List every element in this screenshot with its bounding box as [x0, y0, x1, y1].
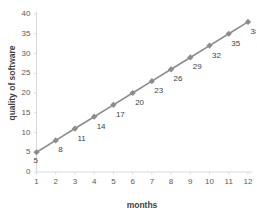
- data-point-label: 32: [212, 52, 221, 60]
- data-point-label: 8: [58, 146, 62, 154]
- data-point-label: 17: [116, 111, 125, 119]
- data-point-label: 11: [77, 135, 85, 143]
- line-chart: quality of software 0510152025303540 123…: [0, 0, 256, 221]
- data-point-label: 20: [135, 99, 144, 107]
- plot-area: [0, 0, 256, 221]
- data-point-label: 35: [231, 40, 240, 48]
- data-point-label: 29: [193, 63, 202, 71]
- axis-lines: [37, 12, 253, 172]
- data-point-label: 23: [154, 87, 163, 95]
- data-point-label: 26: [174, 75, 183, 83]
- x-axis-title: months: [36, 200, 248, 210]
- data-point-label: 38: [251, 28, 257, 36]
- data-point-label: 5: [34, 157, 38, 165]
- axis-tick-marks: [34, 14, 248, 175]
- data-point-label: 14: [97, 123, 106, 131]
- series-line: [37, 22, 249, 152]
